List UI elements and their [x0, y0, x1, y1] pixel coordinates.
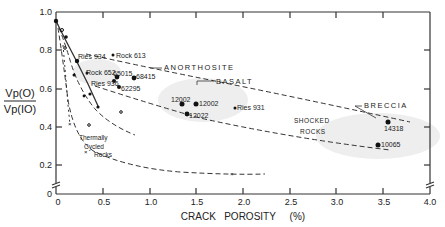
label-rocks-thermal: Rocks	[94, 151, 113, 158]
x-tick-3.0: 3.0	[331, 197, 344, 207]
y-tick-1.0: 1.0	[39, 7, 52, 17]
y-axis-label: Vp(O) Vp(IO)	[4, 87, 36, 115]
label-rocks: ROCKS	[300, 128, 326, 135]
x-marker: ×	[230, 171, 234, 177]
label-thermally: Thermally	[79, 134, 108, 142]
x-tick-3.5: 3.5	[378, 197, 391, 207]
y-tick-0.4: 0.4	[39, 122, 52, 132]
x-tick-4.0: 4.0	[424, 197, 437, 207]
breccia-shade	[316, 113, 440, 159]
x-tick-1.5: 1.5	[191, 197, 204, 207]
thermal-inner-dash	[63, 45, 70, 125]
y-tick-labels: 0 0.2 0.4 0.6 0.8 1.0	[39, 7, 52, 199]
label-shocked: SHOCKED	[294, 117, 330, 124]
label-breccia: BRECCIA	[364, 101, 408, 110]
label-rock652: Rock 652	[86, 69, 116, 76]
label-12002-a: 12002	[171, 96, 191, 103]
crack-porosity-chart: 0 0.2 0.4 0.6 0.8 1.0 0 0.5 1.0 1.5 2.0 …	[0, 0, 445, 227]
y-tick-0.8: 0.8	[39, 45, 52, 55]
label-10065: 10065	[381, 141, 401, 148]
x-axis-label: CRACK POROSITY (%)	[181, 211, 305, 222]
y-tick-0.2: 0.2	[39, 160, 52, 170]
x-tick-2.5: 2.5	[285, 197, 298, 207]
label-anorthosite: ANORTHOSITE	[164, 63, 235, 72]
label-basalt: BASALT	[216, 77, 253, 86]
y-tick-0: 0	[47, 189, 52, 199]
label-62295: 62295	[121, 85, 141, 92]
y-label-denominator: Vp(IO)	[4, 103, 36, 115]
x-tick-2.0: 2.0	[238, 197, 251, 207]
y-label-numerator: Vp(O)	[5, 87, 34, 99]
x-tick-1.0: 1.0	[145, 197, 158, 207]
label-ries931: Ries 931	[237, 104, 265, 111]
label-rock613: Rock 613	[116, 52, 146, 59]
label-12002-b: 12002	[199, 100, 219, 107]
x-tick-0: 0	[55, 197, 60, 207]
label-68415: 68415	[136, 73, 156, 80]
label-14318: 14318	[384, 125, 404, 132]
label-12022: 12022	[189, 112, 209, 119]
label-ries934: Ries 934	[78, 53, 106, 60]
x-tick-labels: 0 0.5 1.0 1.5 2.0 2.5 3.0 3.5 4.0	[55, 197, 436, 207]
label-65015: 65015	[113, 70, 133, 77]
x-tick-0.5: 0.5	[98, 197, 111, 207]
x-marker: ×	[68, 121, 72, 127]
y-tick-0.6: 0.6	[39, 84, 52, 94]
label-cycled: Cycled	[84, 143, 104, 151]
label-ries936: Ries 936	[91, 80, 119, 87]
